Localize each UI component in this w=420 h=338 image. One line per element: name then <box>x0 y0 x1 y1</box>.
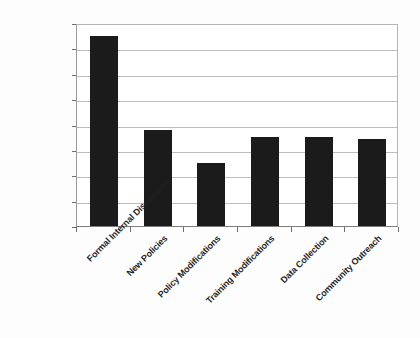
bar <box>305 137 333 226</box>
x-axis-tick-mark <box>344 227 345 232</box>
gridline <box>77 101 397 102</box>
x-axis-category-label: Formal Internal Discussion <box>86 234 116 264</box>
gridline <box>77 177 397 178</box>
bar <box>358 139 386 226</box>
y-axis: 0%5%10%15%20%25%30%35%40% <box>0 0 76 338</box>
x-axis-tick-mark <box>130 227 131 232</box>
gridline <box>77 152 397 153</box>
gridline <box>77 127 397 128</box>
bar <box>197 163 225 226</box>
x-axis-tick-mark <box>183 227 184 232</box>
bar-chart: 0%5%10%15%20%25%30%35%40% Formal Interna… <box>0 0 420 338</box>
x-axis-tick-mark <box>237 227 238 232</box>
x-axis-tick-mark <box>76 227 77 232</box>
bar <box>251 137 279 226</box>
x-axis-tick-mark <box>291 227 292 232</box>
bar <box>90 36 118 226</box>
plot-area <box>76 24 398 227</box>
x-axis-category-label: Policy Modifications <box>117 234 222 338</box>
x-axis: Formal Internal DiscussionNew PoliciesPo… <box>76 227 398 338</box>
x-axis-tick-mark <box>398 227 399 232</box>
gridline <box>77 50 397 51</box>
bar <box>144 130 172 226</box>
gridline <box>77 203 397 204</box>
gridline <box>77 76 397 77</box>
